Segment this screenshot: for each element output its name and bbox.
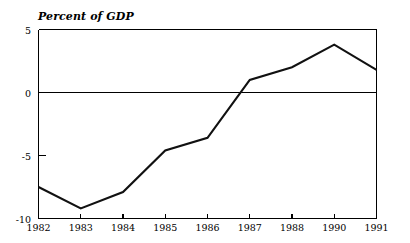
x-tick-label-1984: 1984 — [111, 222, 135, 233]
x-tick-label-1985: 1985 — [153, 222, 177, 233]
axes-group — [39, 30, 377, 219]
x-axis-ticks — [39, 214, 377, 219]
x-tick-label-1987: 1987 — [238, 222, 262, 233]
x-tick-label-1983: 1983 — [69, 222, 93, 233]
y-tick-label-5: 5 — [25, 24, 31, 35]
x-tick-label-1986: 1986 — [195, 222, 219, 233]
series-line-percent-of-gdp — [39, 45, 377, 209]
chart-container: Percent of GDP 1982198319841985198619871… — [0, 0, 410, 243]
y-tick-label--10: -10 — [16, 213, 31, 224]
x-tick-label-1990: 1990 — [322, 222, 346, 233]
y-tick-label-0: 0 — [25, 87, 31, 98]
x-tick-label-1991: 1991 — [364, 222, 388, 233]
chart-plot-area — [0, 0, 410, 243]
axis-frame — [39, 30, 377, 219]
data-series-group — [39, 45, 377, 209]
y-tick-label--5: -5 — [22, 150, 31, 161]
x-tick-label-1988: 1988 — [280, 222, 304, 233]
